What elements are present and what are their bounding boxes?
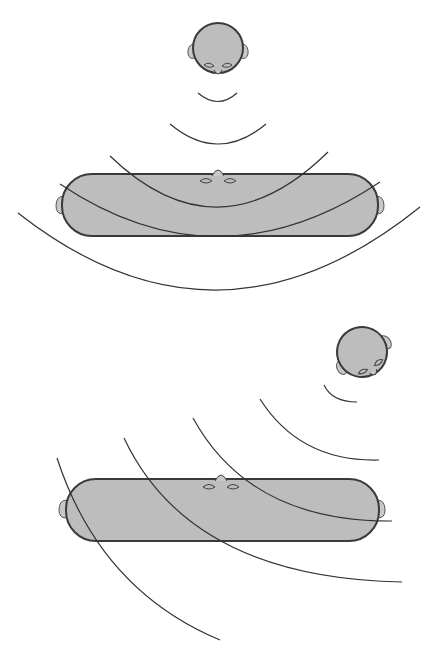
- speaker-head-icon: [188, 23, 248, 74]
- figure-canvas: [0, 0, 436, 648]
- sound-wavefronts: [170, 93, 266, 144]
- bottom-panel: [57, 315, 402, 640]
- wavefront-1: [198, 93, 237, 102]
- speaker-head-rotated-icon: [323, 315, 401, 389]
- top-panel: [18, 23, 420, 290]
- listener-stretched-head-icon: [56, 170, 384, 236]
- wavefront-2: [260, 399, 379, 460]
- wavefront-1: [324, 385, 357, 402]
- listener-stretched-head-icon: [59, 475, 385, 541]
- wavefront-2: [170, 124, 266, 144]
